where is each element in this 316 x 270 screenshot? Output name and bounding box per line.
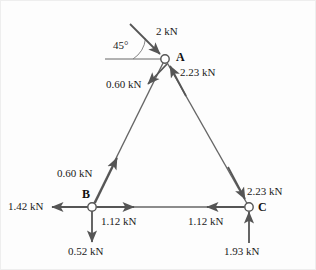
- joint-label-c: C: [258, 201, 267, 213]
- joint-node-a: [161, 55, 169, 63]
- force-arrow-c-223: [228, 167, 245, 199]
- force-label-b-142: 1.42 kN: [8, 201, 43, 212]
- force-arrow-a-060: [148, 64, 167, 84]
- force-label-c-223: 2.23 kN: [247, 186, 282, 197]
- joint-node-c: [245, 203, 253, 211]
- joint-node-b: [88, 203, 96, 211]
- force-arrow-b-060: [95, 158, 117, 203]
- force-label-b-052: 0.52 kN: [68, 246, 103, 257]
- joint-label-a: A: [176, 51, 185, 63]
- force-label-2kn: 2 kN: [156, 26, 178, 37]
- force-label-a-060: 0.60 kN: [106, 79, 141, 90]
- angle-arc-45: [133, 39, 146, 60]
- force-label-b-112: 1.12 kN: [101, 216, 136, 227]
- force-label-c-112: 1.12 kN: [188, 216, 223, 227]
- diagram-canvas: [0, 0, 316, 270]
- force-label-c-193: 1.93 kN: [224, 246, 259, 257]
- figure-border: [1, 1, 316, 270]
- force-label-a-223: 2.23 kN: [180, 67, 215, 78]
- truss-free-body-diagram: 45° 2 kN A 2.23 kN 0.60 kN 0.60 kN B 1.4…: [0, 0, 316, 270]
- force-label-b-060: 0.60 kN: [57, 168, 92, 179]
- joint-label-b: B: [82, 188, 90, 200]
- angle-label-45: 45°: [113, 40, 128, 51]
